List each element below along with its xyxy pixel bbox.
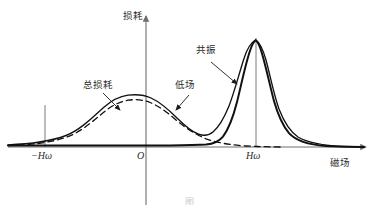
y-axis-label: 损耗 [123,11,143,21]
leader-line-low-field [176,95,189,110]
tick-label-h-omega: Hω [246,151,260,161]
figure-container: 损耗 磁场 O −Hω Hω 总损耗 低场 共振 图 [0,0,379,205]
curve-total-loss [8,40,364,147]
annotation-total-loss: 总损耗 [83,80,114,90]
leader-line-resonance [211,62,237,84]
leader-line-total-loss [103,93,120,110]
annotation-resonance: 共振 [196,45,216,55]
curve-resonance [8,40,364,147]
tick-label-negative-h-omega: −Hω [31,151,52,161]
annotation-low-field: 低场 [175,80,195,90]
origin-label: O [137,151,144,161]
loss-vs-field-chart [0,0,379,205]
figure-caption: 图 [0,195,379,205]
x-axis-label: 磁场 [330,158,350,168]
